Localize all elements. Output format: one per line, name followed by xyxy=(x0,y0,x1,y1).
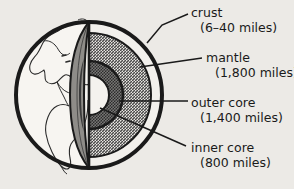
label-mantle-name: mantle xyxy=(206,50,250,65)
label-crust-detail: (6–40 miles) xyxy=(191,20,277,35)
label-inner-core: inner core (800 miles) xyxy=(191,140,271,170)
label-crust: crust (6–40 miles) xyxy=(191,5,277,35)
label-outer-core: outer core (1,400 miles) xyxy=(191,95,283,125)
label-mantle-detail: (1,800 miles) xyxy=(206,65,294,80)
label-inner-core-name: inner core xyxy=(191,140,254,155)
label-mantle: mantle (1,800 miles) xyxy=(206,50,294,80)
leader-line-crust xyxy=(147,14,188,43)
label-crust-name: crust xyxy=(191,5,222,20)
label-inner-core-detail: (800 miles) xyxy=(191,155,271,170)
label-outer-core-name: outer core xyxy=(191,95,255,110)
label-outer-core-detail: (1,400 miles) xyxy=(191,110,283,125)
